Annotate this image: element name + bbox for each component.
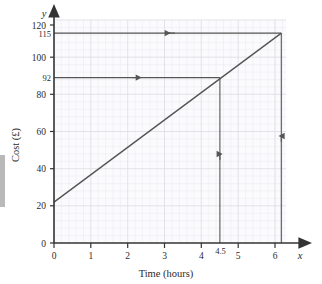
x-axis-letter: x — [297, 250, 303, 261]
x-tick-label-6: 6 — [273, 251, 278, 261]
y-tick-label-115: 115 — [39, 29, 51, 39]
y-tick-label-60: 60 — [37, 127, 47, 137]
y-tick-label-20: 20 — [37, 201, 47, 211]
x-tick-label-1: 1 — [88, 251, 93, 261]
chart-canvas: 0 20 40 60 80 100 120 92 115 0 1 2 3 4 5… — [0, 0, 322, 284]
y-tick-label-0: 0 — [41, 239, 46, 249]
x-axis-title: Time (hours) — [139, 268, 194, 280]
y-tick-label-100: 100 — [32, 53, 47, 63]
y-axis-letter: y — [41, 8, 47, 19]
x-tick-label-5: 5 — [236, 251, 241, 261]
x-tick-label-2: 2 — [125, 251, 130, 261]
cost-vs-time-graph: 0 20 40 60 80 100 120 92 115 0 1 2 3 4 5… — [0, 0, 322, 284]
x-tick-label-4point5: 4.5 — [215, 246, 226, 256]
x-tick-label-4: 4 — [199, 251, 204, 261]
x-tick-label-0: 0 — [52, 251, 57, 261]
y-tick-label-80: 80 — [37, 90, 47, 100]
y-tick-label-40: 40 — [37, 164, 47, 174]
y-axis-title: Cost (£) — [10, 127, 22, 162]
x-tick-label-3: 3 — [162, 251, 167, 261]
y-tick-label-92: 92 — [43, 73, 52, 83]
